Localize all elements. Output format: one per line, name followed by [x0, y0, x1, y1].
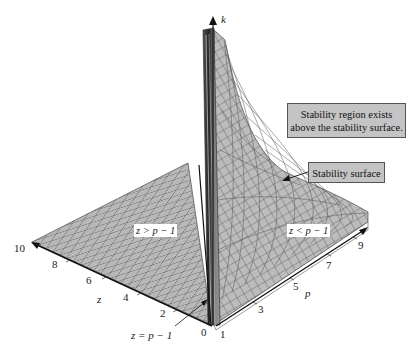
boundary-label: z = p − 1 — [131, 330, 172, 341]
z-tick-10: 10 — [14, 243, 25, 254]
z-tick-4: 4 — [123, 292, 129, 303]
z-tick-6: 6 — [86, 275, 92, 286]
callout-line-1: Stability region exists — [288, 108, 405, 121]
left-floor-plane — [32, 163, 212, 325]
z-tick-0: 0 — [201, 327, 207, 338]
region-label-right: z < p − 1 — [287, 224, 330, 237]
stability-surface-callout: Stability surface — [308, 162, 385, 183]
p-axis-label: p — [305, 288, 311, 299]
z-tick-2: 2 — [160, 308, 166, 319]
p-tick-7: 7 — [326, 260, 332, 271]
callout-line-2: above the stability surface. — [288, 121, 405, 134]
z-tick-8: 8 — [52, 259, 58, 270]
stability-region-callout: Stability region exists above the stabil… — [287, 103, 406, 138]
p-tick-9: 9 — [358, 240, 364, 251]
p-tick-3: 3 — [258, 304, 264, 315]
p-tick-5: 5 — [293, 281, 299, 292]
callout-text: Stability surface — [309, 167, 384, 180]
p-tick-1: 1 — [220, 329, 226, 340]
k-axis-label: k — [221, 14, 226, 25]
stability-surface-figure: k z p 0 2 4 6 8 10 1 3 5 7 9 z > p − 1 z… — [0, 0, 415, 357]
region-label-left: z > p − 1 — [134, 224, 177, 237]
z-axis-label: z — [97, 294, 101, 305]
